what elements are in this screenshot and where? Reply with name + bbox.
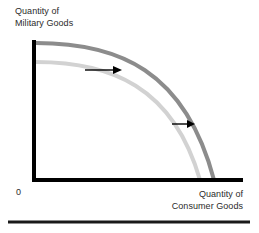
x-axis-label: Quantity of Consumer Goods (172, 189, 243, 212)
origin-label: 0 (16, 187, 21, 198)
ppf-figure: Quantity of Military Goods 0 Quantity of… (0, 0, 259, 233)
ppf-curve-original (36, 62, 200, 180)
